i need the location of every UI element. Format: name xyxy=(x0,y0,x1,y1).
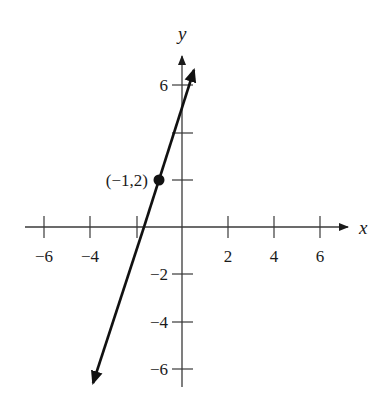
data-point xyxy=(154,175,165,186)
y-tick-label--2: −2 xyxy=(150,265,168,284)
x-tick-label--4: −4 xyxy=(81,247,100,266)
y-tick-label--6: −6 xyxy=(150,360,168,379)
y-tick-label--4: −4 xyxy=(150,313,169,332)
x-tick-label--6: −6 xyxy=(35,247,53,266)
coordinate-plane: y x −6 −4 2 4 6 6 −2 −4 −6 (−1,2) xyxy=(0,0,389,408)
y-axis-label: y xyxy=(176,23,187,44)
x-axis-label: x xyxy=(358,217,368,238)
x-tick-label-4: 4 xyxy=(270,247,279,266)
x-axis xyxy=(25,216,348,238)
chart-canvas: y x −6 −4 2 4 6 6 −2 −4 −6 (−1,2) xyxy=(0,0,389,408)
point-label: (−1,2) xyxy=(106,171,148,190)
x-tick-label-6: 6 xyxy=(316,247,325,266)
x-tick-label-2: 2 xyxy=(224,247,233,266)
y-tick-label-6: 6 xyxy=(160,76,169,95)
